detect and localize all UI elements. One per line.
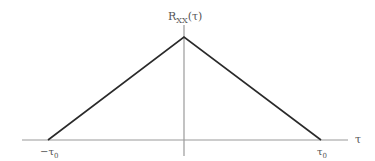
right-tick-label: τ0 [317,146,327,160]
x-axis-label: τ [355,133,361,146]
left-tick-label: −τ0 [40,146,58,160]
y-axis-label: RXX(τ) [168,10,202,25]
autocorrelation-diagram: RXX(τ) τ −τ0 τ0 [0,0,375,161]
